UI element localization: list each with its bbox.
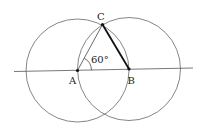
label-c: C — [97, 11, 105, 22]
point-a — [76, 69, 79, 72]
point-b — [127, 67, 130, 70]
point-c — [101, 23, 104, 26]
line-ab — [14, 68, 193, 72]
label-a: A — [68, 75, 77, 86]
label-b: B — [128, 75, 135, 86]
geometry-diagram: A B C 60° — [0, 0, 202, 131]
angle-label: 60° — [91, 54, 109, 65]
